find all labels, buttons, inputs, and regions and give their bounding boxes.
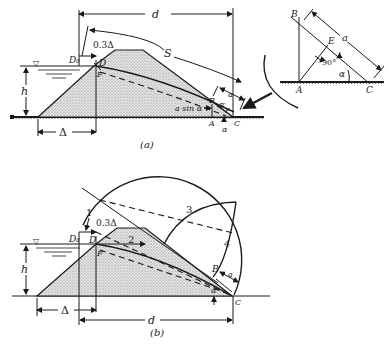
label-delta-a: Δ bbox=[59, 126, 67, 139]
label-D0-a: D₀ bbox=[68, 55, 80, 65]
detail-pointer-arrow bbox=[244, 93, 272, 108]
inset-detail: a B E A C 90° α bbox=[280, 9, 384, 95]
ground-end-a bbox=[10, 115, 14, 119]
label-B-a: B bbox=[208, 96, 215, 105]
label-03delta-b: 0.3Δ bbox=[96, 218, 117, 228]
seepage-diagram: ▽ d S 0.3Δ D₀ D F h Δ bbox=[0, 0, 389, 347]
dam-body-b bbox=[37, 228, 232, 296]
label-a-b: a bbox=[228, 270, 233, 279]
label-B-b: B bbox=[211, 264, 219, 274]
inset-label-B: B bbox=[290, 9, 298, 19]
water-ripples-b bbox=[36, 248, 80, 256]
inset-label-C: C bbox=[366, 85, 373, 95]
label-C-b: C bbox=[235, 298, 241, 307]
inset-label-A: A bbox=[295, 85, 303, 95]
inset-label-E: E bbox=[327, 36, 335, 46]
inset-label-90deg: 90° bbox=[322, 58, 336, 67]
label-D0-b: D₀ bbox=[68, 234, 80, 244]
label-C-a: C bbox=[234, 119, 240, 128]
label-D-a: D bbox=[98, 58, 106, 68]
inset-label-alpha: α bbox=[339, 69, 345, 79]
label-d-b: d bbox=[148, 314, 155, 327]
water-symbol-a: ▽ bbox=[33, 59, 40, 68]
label-alpha-b: α bbox=[211, 286, 217, 295]
label-asinalpha-a: a sin α bbox=[175, 104, 203, 113]
label-d-a: d bbox=[152, 8, 159, 21]
label-delta-b: Δ bbox=[61, 304, 69, 317]
label-A-a: A bbox=[208, 119, 215, 128]
panel-a: ▽ d S 0.3Δ D₀ D F h Δ bbox=[10, 8, 298, 150]
label-h-b: h bbox=[21, 263, 28, 276]
water-ripples-a bbox=[38, 70, 80, 78]
caption-a: (a) bbox=[140, 139, 154, 150]
label-S-a: S bbox=[164, 47, 172, 60]
step-label-1: 1 bbox=[86, 207, 92, 218]
step-label-3: 3 bbox=[186, 204, 192, 215]
label-03delta-a: 0.3Δ bbox=[93, 40, 114, 50]
label-F2-a: F bbox=[224, 107, 231, 115]
label-F-a: F bbox=[96, 70, 103, 79]
label-D-b: D bbox=[88, 235, 96, 245]
caption-b: (b) bbox=[150, 327, 164, 338]
water-symbol-b: ▽ bbox=[33, 237, 40, 246]
label-F-b: F bbox=[96, 249, 103, 258]
panel-b: ▽ 1 2 3 4 0.3Δ D₀ D F h bbox=[12, 177, 270, 338]
label-h-a: h bbox=[21, 85, 28, 98]
step-label-4: 4 bbox=[223, 238, 230, 249]
label-alpha-a: α bbox=[222, 125, 228, 134]
label-a-a: a bbox=[228, 90, 233, 99]
dam-body-a bbox=[38, 50, 233, 117]
step-label-2: 2 bbox=[128, 234, 134, 245]
inset-label-a: a bbox=[342, 32, 348, 43]
label-E-a: E bbox=[218, 101, 225, 110]
